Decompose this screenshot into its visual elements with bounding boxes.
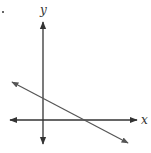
coordinate-plane: y x [0,0,151,153]
graphed-line [12,82,128,143]
bullet-marker-dot [2,11,4,13]
x-axis-label: x [141,113,148,127]
y-axis-label: y [39,3,47,17]
